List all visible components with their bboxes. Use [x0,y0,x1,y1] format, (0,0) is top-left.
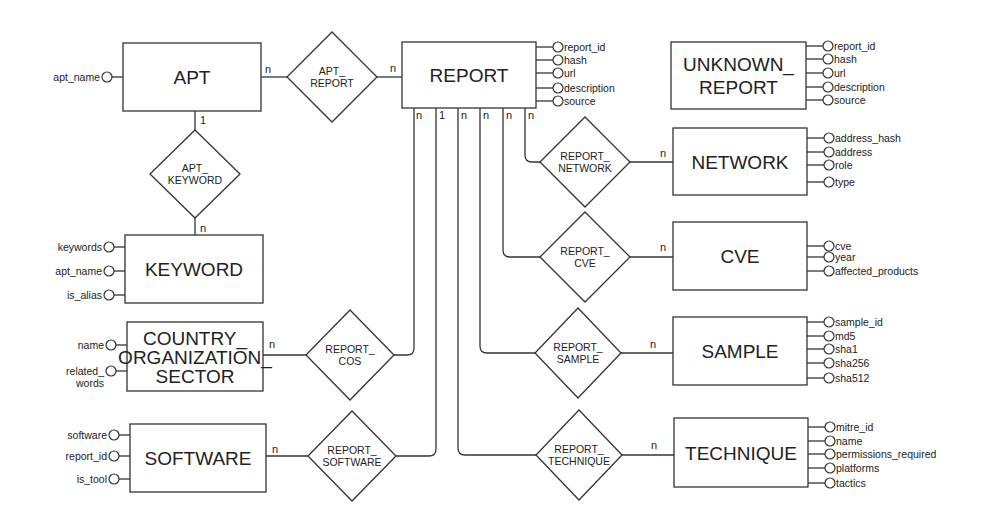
entity-sample[interactable]: SAMPLEsample_idmd5sha1sha256sha512 [673,316,883,385]
entity-report[interactable]: REPORTreport_idhashurldescriptionsource [402,41,615,108]
attribute-label: hash [564,54,587,66]
attribute-circle-icon [106,366,116,376]
attribute-circle-icon [553,68,563,78]
attribute-circle-icon [104,266,114,276]
entity-cve[interactable]: CVEcveyearaffected_products [673,222,918,290]
attribute-report_id[interactable]: report_id [66,450,130,462]
attribute-related[interactable]: related_words [66,365,127,389]
attribute-label: year [835,251,856,263]
attribute-label: url [834,67,846,79]
relationship-report_cve[interactable]: REPORT_CVE [540,212,630,302]
relationship-report_software[interactable]: REPORT_SOFTWARE [308,411,396,501]
attribute-label: sample_id [835,316,883,328]
attribute-sha512[interactable]: sha512 [807,372,870,384]
relationship-label: REPORT_ [560,150,610,162]
attribute-label: role [835,159,853,171]
cardinality-label: n [506,109,512,121]
attribute-report_id[interactable]: report_id [806,40,876,52]
attribute-url[interactable]: url [806,67,846,79]
connection-report-to-report_sample: n [480,108,535,353]
relationship-apt_report[interactable]: APT_REPORT [287,32,377,122]
cardinality-label: n [660,147,666,159]
entity-technique[interactable]: TECHNIQUEmitre_idnamepermissions_require… [674,418,937,489]
relationship-report_sample[interactable]: REPORT_SAMPLE [535,308,621,398]
attribute-circle-icon [825,478,835,488]
attribute-circle-icon [104,242,114,252]
connector-line [480,108,535,353]
cardinality-label: n [200,222,206,234]
entity-apt[interactable]: APTapt_name [53,43,261,111]
attribute-sha1[interactable]: sha1 [807,343,858,355]
attribute-source[interactable]: source [806,94,866,106]
cardinality-label: 1 [439,109,445,121]
attribute-description[interactable]: description [536,82,615,94]
attribute-hash[interactable]: hash [806,53,857,65]
attribute-circle-icon [102,72,112,82]
attribute-permissions_required[interactable]: permissions_required [808,448,937,460]
cardinality-label: 1 [200,114,206,126]
attribute-address[interactable]: address [807,146,872,158]
attribute-label: is_alias [67,289,102,301]
entity-label: APT [174,67,211,88]
attribute-label: type [835,176,855,188]
attribute-is_tool[interactable]: is_tool [77,473,130,485]
relationship-label: TECHNIQUE [548,455,610,467]
attribute-sha256[interactable]: sha256 [807,357,870,369]
relationship-label: NETWORK [558,162,612,174]
connection-report_sample-to-sample: n [621,338,673,353]
attribute-tactics[interactable]: tactics [808,477,866,489]
relationship-label: KEYWORD [168,174,223,186]
attribute-platforms[interactable]: platforms [808,462,879,474]
attribute-label: sha256 [835,357,870,369]
attribute-circle-icon [106,340,116,350]
attribute-description[interactable]: description [806,81,885,93]
attribute-type[interactable]: type [807,176,855,188]
attribute-label: related_ [66,365,104,377]
attribute-sample_id[interactable]: sample_id [807,316,883,328]
entity-unknown_report[interactable]: UNKNOWN_REPORTreport_idhashurldescriptio… [671,40,885,109]
attribute-label: report_id [834,40,876,52]
entity-label: SOFTWARE [145,448,252,469]
attribute-url[interactable]: url [536,67,576,79]
attribute-circle-icon [553,42,563,52]
attribute-circle-icon [109,451,119,461]
entity-label: TECHNIQUE [685,443,797,464]
attribute-address_hash[interactable]: address_hash [807,132,901,144]
attribute-circle-icon [825,436,835,446]
relationship-label: APT_ [182,162,208,174]
entity-box[interactable] [671,42,806,109]
entity-label: SAMPLE [701,341,778,362]
relationship-report_technique[interactable]: REPORT_TECHNIQUE [536,410,622,500]
attribute-report_id[interactable]: report_id [536,41,606,53]
relationship-label: REPORT_ [553,341,603,353]
attribute-mitre_id[interactable]: mitre_id [808,421,874,433]
attribute-label: name [78,339,104,351]
attribute-circle-icon [825,449,835,459]
attribute-role[interactable]: role [807,159,853,171]
entity-keyword[interactable]: KEYWORDkeywordsapt_nameis_alias [55,235,263,303]
attribute-apt_name[interactable]: apt_name [55,265,125,277]
attribute-affected_products[interactable]: affected_products [807,265,918,277]
attribute-hash[interactable]: hash [536,54,587,66]
connection-apt_report-to-report: n [377,62,402,77]
attribute-source[interactable]: source [536,95,596,107]
connection-report-to-report_network: n [525,108,540,162]
cardinality-label: n [461,109,467,121]
entity-software[interactable]: SOFTWAREsoftwarereport_idis_tool [66,424,266,492]
attribute-year[interactable]: year [807,251,856,263]
relationship-report_network[interactable]: REPORT_NETWORK [540,117,630,207]
attribute-md5[interactable]: md5 [807,330,856,342]
attribute-keywords[interactable]: keywords [58,241,125,253]
attribute-name[interactable]: name [808,435,862,447]
entity-network[interactable]: NETWORKaddress_hashaddressroletype [673,128,901,195]
relationship-report_cos[interactable]: REPORT_COS [306,310,394,400]
attribute-apt_name[interactable]: apt_name [53,71,123,83]
attribute-circle-icon [824,344,834,354]
attribute-label: affected_products [835,265,918,277]
connection-software-to-report_software: n [266,443,308,456]
attribute-software[interactable]: software [67,429,130,441]
relationship-apt_keyword[interactable]: APT_KEYWORD [150,130,240,218]
attribute-circle-icon [823,41,833,51]
entity-country_organization_sector[interactable]: COUNTRY_ORGANIZATION_SECTORnamerelated_w… [66,322,272,391]
attribute-is_alias[interactable]: is_alias [67,289,125,301]
